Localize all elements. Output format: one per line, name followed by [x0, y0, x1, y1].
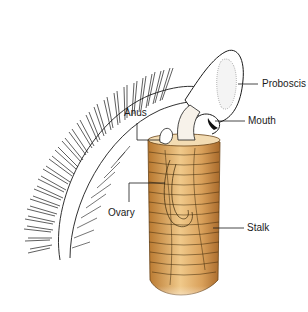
label-stalk: Stalk	[247, 223, 269, 233]
label-ovary: Ovary	[108, 208, 135, 218]
pterobranch-diagram	[0, 0, 308, 312]
label-proboscis: Proboscis	[262, 79, 306, 89]
label-anus: Anus	[124, 108, 147, 118]
zooid-column	[160, 105, 200, 144]
label-mouth: Mouth	[248, 116, 276, 126]
stalk-body	[140, 134, 230, 310]
